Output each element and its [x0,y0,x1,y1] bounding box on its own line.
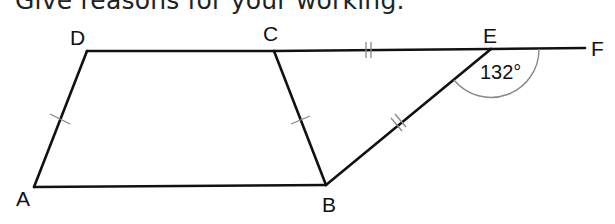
label-c: C [263,22,278,45]
segment-ef [491,48,585,49]
angle-label: 132° [480,61,521,83]
segment-bc [274,51,326,185]
label-f: F [591,37,604,60]
segment-ce [274,49,491,51]
label-a: A [16,187,30,210]
label-d: D [70,26,85,49]
geometry-diagram: D C A B E F 132° [0,0,615,224]
label-b: B [322,193,336,216]
label-e: E [483,24,497,47]
segment-eb [326,49,491,185]
segment-ab [34,185,326,187]
